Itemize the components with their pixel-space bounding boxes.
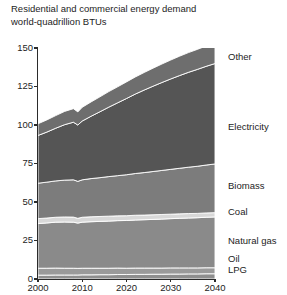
legend-label-coal: Coal [228,206,248,217]
legend-label-oil: Oil [228,253,240,264]
legend-label-other: Other [228,51,252,62]
x-tick-label-2020: 2020 [107,282,147,293]
plot-area [38,48,215,279]
x-tick-label-2030: 2030 [151,282,191,293]
chart-title: Residential and commercial energy demand… [11,3,241,28]
area-band-natural-gas [38,217,215,268]
y-tick-label-50: 50 [3,196,33,207]
y-tick-mark [34,201,37,202]
chart-screenshot: Residential and commercial energy demand… [0,0,287,295]
y-tick-mark [34,163,37,164]
x-tick-label-2040: 2040 [195,282,235,293]
y-tick-label-25: 25 [3,234,33,245]
x-tick-label-2000: 2000 [18,282,58,293]
legend-label-biomass: Biomass [228,180,264,191]
y-tick-mark [34,240,37,241]
y-tick-label-125: 125 [3,80,33,91]
y-tick-label-150: 150 [3,42,33,53]
legend-label-lpg: LPG [228,264,247,275]
y-axis-line [37,47,38,280]
area-band-oil [38,268,215,275]
y-tick-label-100: 100 [3,119,33,130]
y-tick-mark [34,124,37,125]
stacked-area-svg [38,48,215,279]
y-tick-mark [34,47,37,48]
y-tick-mark [34,86,37,87]
y-tick-label-75: 75 [3,157,33,168]
y-axis-ticks: 0255075100125150 [0,0,33,295]
x-tick-label-2010: 2010 [62,282,102,293]
legend-label-natural-gas: Natural gas [228,235,277,246]
legend-label-electricity: Electricity [228,121,269,132]
